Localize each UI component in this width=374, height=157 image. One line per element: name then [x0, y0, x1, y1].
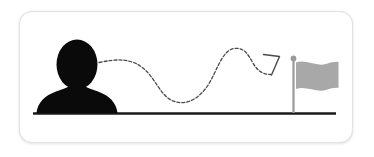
flag-finial	[291, 56, 297, 62]
arrowhead-icon	[264, 55, 280, 76]
dashed-journey-path	[99, 48, 271, 102]
illustration-scene	[0, 0, 374, 157]
illustration-canvas	[0, 0, 374, 157]
person-head	[57, 40, 98, 90]
flag-banner	[296, 62, 339, 91]
